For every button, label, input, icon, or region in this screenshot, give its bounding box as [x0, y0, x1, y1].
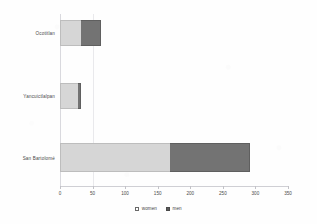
- x-axis-line: [60, 186, 288, 187]
- tick-mark: [288, 186, 289, 189]
- bar-row[interactable]: [60, 143, 250, 172]
- bar-row[interactable]: [60, 83, 82, 109]
- tick-mark: [190, 186, 191, 189]
- legend-swatch-men-icon: [166, 207, 170, 211]
- legend-label-men: men: [173, 206, 182, 211]
- tick-mark: [255, 186, 256, 189]
- legend-item-men[interactable]: men: [166, 206, 182, 211]
- tick-mark: [223, 186, 224, 189]
- x-tick-label: 100: [121, 191, 129, 196]
- category-label-0: Ocotitlan: [36, 31, 55, 36]
- bar-segment-men[interactable]: [170, 143, 250, 172]
- legend-item-women[interactable]: women: [135, 206, 157, 211]
- x-tick-label: 300: [252, 191, 260, 196]
- tick-mark: [158, 186, 159, 189]
- category-label-2: San Bartolomé: [23, 155, 55, 160]
- x-tick-label: 50: [90, 191, 95, 196]
- x-tick-label: 150: [154, 191, 162, 196]
- category-label-1: Yancuictlalpan: [23, 94, 55, 99]
- bar-segment-men[interactable]: [81, 20, 101, 46]
- tick-mark: [60, 186, 61, 189]
- bar-segment-men[interactable]: [78, 83, 81, 109]
- bar-segment-women[interactable]: [60, 83, 78, 109]
- bar-row[interactable]: [60, 20, 101, 46]
- legend-label-women: women: [142, 206, 157, 211]
- legend-swatch-women-icon: [135, 207, 139, 211]
- bar-segment-women[interactable]: [60, 143, 170, 172]
- x-tick-label: 200: [186, 191, 194, 196]
- x-tick-label: 250: [219, 191, 227, 196]
- chart-figure: Ocotitlan Yancuictlalpan San Bartolomé 0…: [0, 0, 317, 224]
- chart-legend: women men: [0, 206, 317, 211]
- tick-mark: [93, 186, 94, 189]
- x-tick-label: 0: [59, 191, 62, 196]
- x-tick-label: 350: [284, 191, 292, 196]
- tick-mark: [125, 186, 126, 189]
- bar-segment-women[interactable]: [60, 20, 81, 46]
